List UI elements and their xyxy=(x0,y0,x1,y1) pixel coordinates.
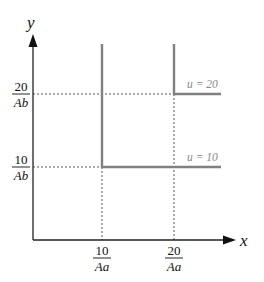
axes xyxy=(29,34,237,245)
x-tick-20-denominator: Aa xyxy=(166,259,182,274)
y-tick-20-numerator: 20 xyxy=(15,79,28,94)
y-tick-10-denominator: Ab xyxy=(13,168,29,183)
indifference-curve-diagram: y x 20 Ab 10 Ab 10 Aa 20 Aa u = 20 u = 1… xyxy=(0,0,264,282)
y-tick-10-numerator: 10 xyxy=(15,152,28,167)
x-tick-10-denominator: Aa xyxy=(94,259,110,274)
x-tick-10-numerator: 10 xyxy=(96,243,109,258)
x-axis-arrow-icon xyxy=(223,236,236,245)
y-tick-20: 20 Ab xyxy=(12,79,30,110)
y-axis-arrow-icon xyxy=(29,34,38,47)
x-axis-label: x xyxy=(239,231,248,250)
x-tick-20: 20 Aa xyxy=(165,243,183,274)
y-tick-10: 10 Ab xyxy=(12,152,30,183)
curve-u-10 xyxy=(102,44,221,167)
curve-label-u-20: u = 20 xyxy=(187,78,218,90)
x-tick-20-numerator: 20 xyxy=(168,243,181,258)
x-tick-10: 10 Aa xyxy=(93,243,111,274)
y-axis-label: y xyxy=(25,13,35,32)
curve-label-u-10: u = 10 xyxy=(187,151,218,163)
y-tick-20-denominator: Ab xyxy=(13,95,29,110)
curves xyxy=(102,44,221,167)
